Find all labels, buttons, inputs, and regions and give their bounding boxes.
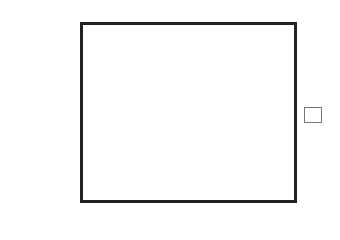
doubling-cube[interactable]: [304, 107, 322, 123]
backgammon-board: [80, 22, 297, 203]
board-surface: [83, 25, 294, 200]
